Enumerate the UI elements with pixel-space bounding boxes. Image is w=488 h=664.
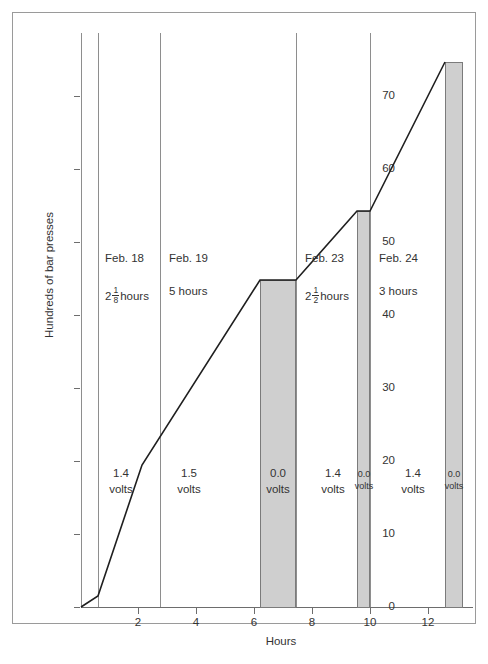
x-tick-label-10: 10 <box>355 617 385 629</box>
session-duration-0-unit: hours <box>120 290 149 302</box>
y-tick-label-50: 50 <box>382 236 395 248</box>
session-duration-3-whole: 3 <box>379 285 385 297</box>
session-duration-0: 218hours <box>105 286 149 304</box>
voltage-value-6: 0.0 <box>448 469 461 479</box>
session-duration-1: 5 hours <box>169 286 207 298</box>
y-tick-mark-0 <box>74 607 80 608</box>
session-duration-3-unit: hours <box>389 285 418 297</box>
x-axis-title: Hours <box>241 635 321 647</box>
session-date-3: Feb. 24 <box>379 253 418 265</box>
session-duration-1-whole: 5 <box>169 285 175 297</box>
voltage-value-3: 1.4 <box>325 467 341 479</box>
y-tick-mark-20 <box>74 461 80 462</box>
y-tick-label-30: 30 <box>382 382 395 394</box>
voltage-label-1: 1.5 volts <box>167 466 211 497</box>
y-axis-title: Hundreds of bar presses <box>43 175 55 375</box>
session-date-2: Feb. 23 <box>305 253 344 265</box>
voltage-unit-6: volts <box>445 481 464 491</box>
cumulative-record-figure: 0 10 20 30 40 50 60 70 2 4 6 8 10 12 <box>0 0 488 664</box>
y-tick-label-10: 10 <box>382 528 395 540</box>
x-tick-label-12: 12 <box>413 617 443 629</box>
y-tick-label-40: 40 <box>382 309 395 321</box>
voltage-value-5: 1.4 <box>405 467 421 479</box>
voltage-unit-5: volts <box>401 483 425 495</box>
session-duration-2-whole: 2 <box>305 290 311 302</box>
voltage-value-2: 0.0 <box>270 467 286 479</box>
x-tick-mark-2 <box>138 608 139 614</box>
voltage-value-1: 1.5 <box>181 467 197 479</box>
session-divider-0 <box>81 33 82 607</box>
y-tick-mark-70 <box>74 96 80 97</box>
x-tick-mark-4 <box>196 608 197 614</box>
session-divider-3 <box>296 33 297 607</box>
session-duration-1-unit: hours <box>179 285 208 297</box>
y-tick-label-70: 70 <box>382 90 395 102</box>
session-duration-3: 3 hours <box>379 286 417 298</box>
session-divider-1 <box>98 33 99 607</box>
voltage-unit-4: volts <box>355 481 374 491</box>
session-date-0: Feb. 18 <box>105 253 144 265</box>
voltage-label-6: 0.0 volts <box>442 468 466 492</box>
x-tick-label-6: 6 <box>239 617 269 629</box>
y-tick-mark-30 <box>74 388 80 389</box>
extinction-band-1 <box>260 280 296 608</box>
session-divider-2 <box>160 33 161 607</box>
x-tick-label-8: 8 <box>297 617 327 629</box>
x-tick-label-4: 4 <box>181 617 211 629</box>
session-duration-2: 212hours <box>305 286 349 304</box>
extinction-band-2 <box>357 211 370 608</box>
y-tick-mark-60 <box>74 169 80 170</box>
figure-frame: 0 10 20 30 40 50 60 70 2 4 6 8 10 12 <box>12 12 476 624</box>
voltage-unit-0: volts <box>109 483 133 495</box>
y-tick-mark-40 <box>74 315 80 316</box>
x-tick-mark-8 <box>312 608 313 614</box>
voltage-unit-2: volts <box>266 483 290 495</box>
session-duration-2-fraction: 12 <box>312 286 319 304</box>
x-tick-mark-10 <box>370 608 371 614</box>
x-tick-mark-6 <box>254 608 255 614</box>
y-tick-label-60: 60 <box>382 163 395 175</box>
y-tick-label-20: 20 <box>382 455 395 467</box>
voltage-value-0: 1.4 <box>113 467 129 479</box>
voltage-unit-1: volts <box>177 483 201 495</box>
x-tick-mark-12 <box>428 608 429 614</box>
voltage-label-3: 1.4 volts <box>311 466 355 497</box>
plot-area: 0 10 20 30 40 50 60 70 2 4 6 8 10 12 <box>81 37 473 607</box>
voltage-unit-3: volts <box>321 483 345 495</box>
y-tick-label-0: 0 <box>389 601 395 613</box>
session-duration-2-unit: hours <box>320 290 349 302</box>
voltage-label-4: 0.0 volts <box>352 468 376 492</box>
session-date-1: Feb. 19 <box>169 253 208 265</box>
extinction-band-3 <box>445 62 463 608</box>
session-duration-0-whole: 2 <box>105 290 111 302</box>
y-tick-mark-50 <box>74 242 80 243</box>
voltage-label-5: 1.4 volts <box>391 466 435 497</box>
session-divider-4 <box>370 33 371 607</box>
session-duration-0-fraction: 18 <box>112 286 119 304</box>
voltage-label-0: 1.4 volts <box>99 466 143 497</box>
voltage-label-2: 0.0 volts <box>256 466 300 497</box>
voltage-value-4: 0.0 <box>358 469 371 479</box>
x-tick-label-2: 2 <box>123 617 153 629</box>
y-tick-mark-10 <box>74 534 80 535</box>
